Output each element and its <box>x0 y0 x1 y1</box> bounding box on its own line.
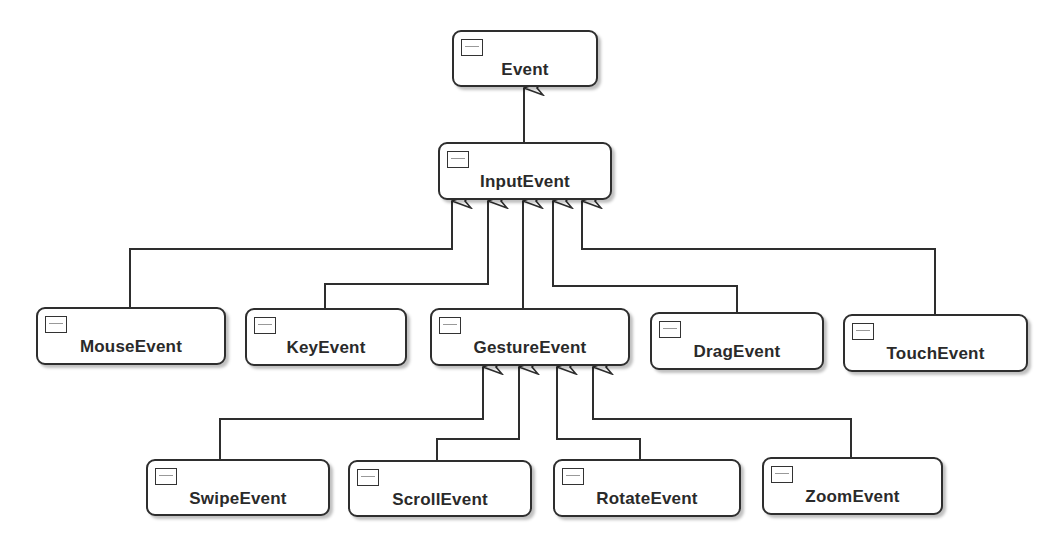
class-icon <box>852 323 874 340</box>
class-node-dragevent[interactable]: DragEvent <box>650 312 824 370</box>
edge-swipe-gesture <box>220 367 483 460</box>
class-node-scrollevent[interactable]: ScrollEvent <box>348 460 532 517</box>
class-icon <box>771 466 793 483</box>
class-label: InputEvent <box>440 172 610 192</box>
edge-key-input <box>325 201 488 309</box>
class-icon <box>45 316 67 333</box>
class-icon <box>357 469 379 486</box>
class-node-zoomevent[interactable]: ZoomEvent <box>762 457 943 515</box>
class-node-inputevent[interactable]: InputEvent <box>438 142 612 200</box>
class-icon <box>439 317 461 334</box>
class-node-rotateevent[interactable]: RotateEvent <box>553 459 741 517</box>
class-label: SwipeEvent <box>148 489 328 509</box>
class-node-swipeevent[interactable]: SwipeEvent <box>146 459 330 516</box>
edge-touch-input <box>582 201 935 315</box>
edge-zoom-gesture <box>593 367 851 458</box>
class-label: GestureEvent <box>432 338 628 358</box>
class-node-touchevent[interactable]: TouchEvent <box>843 314 1028 372</box>
class-icon <box>447 151 469 168</box>
class-label: ScrollEvent <box>350 490 530 510</box>
edge-drag-input <box>553 201 737 313</box>
class-node-mouseevent[interactable]: MouseEvent <box>36 307 226 365</box>
class-icon <box>659 321 681 338</box>
edge-mouse-input <box>130 201 452 308</box>
class-label: KeyEvent <box>247 338 405 358</box>
class-icon <box>254 317 276 334</box>
class-node-event[interactable]: Event <box>452 30 598 87</box>
class-label: TouchEvent <box>845 344 1026 364</box>
class-label: DragEvent <box>652 342 822 362</box>
class-node-gestureevent[interactable]: GestureEvent <box>430 308 630 366</box>
edge-rotate-gesture <box>557 367 640 460</box>
edge-scroll-gesture <box>437 367 519 461</box>
class-label: ZoomEvent <box>764 487 941 507</box>
class-label: MouseEvent <box>38 337 224 357</box>
class-icon <box>562 468 584 485</box>
class-node-keyevent[interactable]: KeyEvent <box>245 308 407 366</box>
class-label: Event <box>454 60 596 80</box>
class-label: RotateEvent <box>555 489 739 509</box>
class-icon <box>155 468 177 485</box>
class-icon <box>461 39 483 56</box>
